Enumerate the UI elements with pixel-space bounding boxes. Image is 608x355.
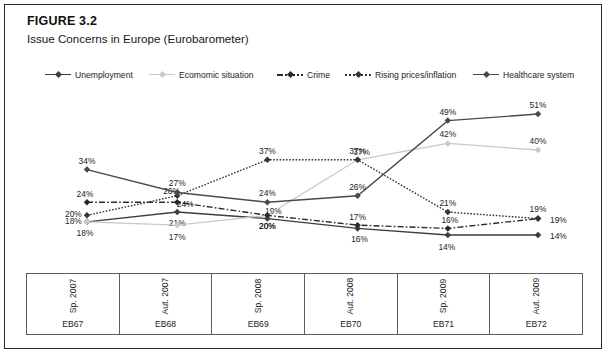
data-label: 14%	[550, 231, 567, 241]
legend-entry-healthcare-system: Healthcare system	[473, 67, 574, 83]
legend-swatch-icon	[149, 69, 175, 81]
figure-caption: Issue Concerns in Europe (Eurobarometer)	[27, 31, 249, 46]
data-point-marker	[535, 147, 542, 154]
data-point-marker	[84, 219, 91, 226]
x-axis-period-label: Sp. 2009	[398, 277, 490, 315]
data-label: 21%	[439, 198, 456, 208]
x-axis-cell-eb68: Aut. 2007EB68	[120, 274, 213, 334]
data-label: 24%	[77, 189, 94, 199]
data-point-marker	[264, 199, 271, 206]
data-label: 37%	[349, 146, 366, 156]
data-point-marker	[445, 209, 452, 216]
data-label: 27%	[169, 178, 186, 188]
series-line-healthcare-system	[87, 114, 538, 202]
line-chart-svg: 18%21%19%16%14%14%18%17%20%37%42%40%24%2…	[25, 93, 585, 263]
data-point-marker	[445, 232, 452, 239]
x-axis-cell-eb69: Sp. 2008EB69	[212, 274, 305, 334]
data-label: 19%	[550, 215, 567, 225]
data-label: 49%	[439, 107, 456, 117]
data-point-marker	[84, 212, 91, 219]
data-label: 34%	[79, 156, 96, 166]
data-point-marker	[174, 209, 181, 216]
data-label: 42%	[439, 129, 456, 139]
legend-entry-crime: Crime	[277, 67, 330, 83]
x-axis-period-label: Aut. 2008	[305, 277, 397, 315]
data-point-marker	[445, 140, 452, 147]
legend-label: Healthcare system	[503, 70, 574, 80]
legend-marker-icon	[483, 71, 490, 78]
legend-label: Crime	[307, 70, 330, 80]
legend-marker-icon	[355, 71, 362, 78]
legend-swatch-icon	[277, 69, 303, 81]
legend-marker-icon	[55, 71, 62, 78]
series-line-ecomomic-situation	[87, 143, 538, 225]
data-label: 19%	[530, 204, 547, 214]
data-label: 24%	[177, 199, 194, 209]
data-point-marker	[84, 166, 91, 173]
chart-legend: UnemploymentEcomomic situationCrimeRisin…	[45, 67, 585, 83]
x-axis-table: Sp. 2007EB67Aut. 2007EB68Sp. 2008EB69Aut…	[26, 273, 583, 335]
data-label: 14%	[438, 242, 455, 252]
series-line-rising-prices-inflation	[87, 160, 538, 219]
data-label: 16%	[441, 215, 458, 225]
data-label: 18%	[77, 228, 94, 238]
x-axis-period-label: Sp. 2008	[212, 277, 304, 315]
legend-label: Ecomomic situation	[179, 70, 254, 80]
data-label: 37%	[259, 146, 276, 156]
legend-swatch-icon	[473, 69, 499, 81]
data-point-marker	[535, 232, 542, 239]
data-label: 20%	[65, 209, 82, 219]
legend-label: Rising prices/inflation	[375, 70, 456, 80]
data-label: 17%	[169, 232, 186, 242]
legend-entry-unemployment: Unemployment	[45, 67, 133, 83]
figure-number: FIGURE 3.2	[27, 14, 249, 29]
legend-marker-icon	[159, 71, 166, 78]
data-point-marker	[264, 157, 271, 164]
x-axis-code-label: EB71	[398, 319, 490, 329]
data-label: 40%	[530, 136, 547, 146]
x-axis-period-label: Aut. 2009	[490, 277, 582, 315]
x-axis-cell-eb71: Sp. 2009EB71	[398, 274, 491, 334]
data-label: 17%	[349, 212, 366, 222]
legend-label: Unemployment	[75, 70, 133, 80]
x-axis-code-label: EB67	[27, 319, 119, 329]
x-axis-cell-eb70: Aut. 2008EB70	[305, 274, 398, 334]
legend-swatch-icon	[45, 69, 71, 81]
x-axis-code-label: EB69	[212, 319, 304, 329]
figure-title-block: FIGURE 3.2 Issue Concerns in Europe (Eur…	[27, 14, 249, 46]
data-point-marker	[84, 199, 91, 206]
x-axis-code-label: EB72	[490, 319, 582, 329]
data-point-marker	[535, 111, 542, 118]
x-axis-period-label: Aut. 2007	[120, 277, 212, 315]
x-axis-code-label: EB68	[120, 319, 212, 329]
data-point-marker	[354, 157, 361, 164]
series-line-unemployment	[87, 212, 538, 235]
data-label: 24%	[259, 188, 276, 198]
x-axis-cell-eb72: Aut. 2009EB72	[490, 274, 582, 334]
legend-marker-icon	[287, 71, 294, 78]
chart-plot-area: 18%21%19%16%14%14%18%17%20%37%42%40%24%2…	[25, 93, 585, 263]
legend-entry-ecomomic-situation: Ecomomic situation	[149, 67, 254, 83]
legend-swatch-icon	[345, 69, 371, 81]
x-axis-cell-eb67: Sp. 2007EB67	[27, 274, 120, 334]
data-label: 26%	[349, 182, 366, 192]
legend-entry-rising-prices-inflation: Rising prices/inflation	[345, 67, 456, 83]
data-point-marker	[535, 215, 542, 222]
data-label: 51%	[530, 100, 547, 110]
x-axis-code-label: EB70	[305, 319, 397, 329]
data-point-marker	[445, 225, 452, 232]
x-axis-period-label: Sp. 2007	[27, 277, 119, 315]
data-label: 16%	[351, 234, 368, 244]
figure-frame: FIGURE 3.2 Issue Concerns in Europe (Eur…	[4, 4, 602, 349]
data-point-marker	[354, 222, 361, 229]
data-label: 20%	[259, 221, 276, 231]
